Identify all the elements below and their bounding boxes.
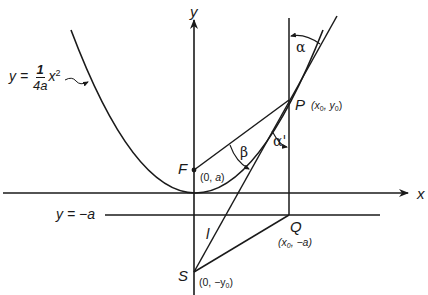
diagram-graphics bbox=[0, 0, 428, 295]
parabola-equation-label: y = 14ax2 bbox=[9, 63, 60, 92]
line-SQ bbox=[194, 215, 289, 272]
tangent-line-label: l bbox=[206, 226, 209, 241]
fraction-numerator: 1 bbox=[36, 63, 45, 78]
y-axis-label: y bbox=[190, 4, 198, 19]
equation-lhs: y = bbox=[9, 68, 32, 84]
curve-label-leader bbox=[65, 78, 88, 84]
point-S-label: S bbox=[178, 268, 188, 283]
coords-text: ) bbox=[229, 276, 233, 288]
coords-text: (0, −y bbox=[199, 276, 226, 288]
point-Q-label: Q bbox=[290, 219, 302, 234]
focus-point bbox=[192, 168, 197, 173]
x-axis-label: x bbox=[417, 186, 425, 201]
coords-text: (x bbox=[278, 236, 287, 248]
point-F-label: F bbox=[178, 161, 187, 176]
angle-alpha-prime-label: α' bbox=[273, 134, 286, 148]
point-P-label: P bbox=[295, 97, 305, 112]
equation-exponent: 2 bbox=[55, 68, 60, 78]
coords-text: (0, bbox=[200, 171, 215, 183]
coords-text: ) bbox=[221, 171, 225, 183]
angle-beta-label: β bbox=[240, 145, 248, 159]
coords-text: (x bbox=[311, 99, 320, 111]
angle-alpha-label: α bbox=[296, 40, 305, 54]
tangent-line-l bbox=[194, 16, 337, 272]
equation-fraction: 14a bbox=[33, 63, 47, 92]
fraction-denominator: 4a bbox=[33, 78, 47, 92]
parabola-diagram: y x y = 14ax2 y = −a F (0, a) P (x0, y0)… bbox=[0, 0, 428, 295]
directrix-label: y = −a bbox=[56, 207, 95, 221]
coords-text: , y bbox=[324, 99, 335, 111]
point-F-coords: (0, a) bbox=[200, 172, 225, 183]
coords-text: ) bbox=[339, 99, 343, 111]
point-Q-coords: (x0, −a) bbox=[278, 237, 312, 249]
coords-text: , −a) bbox=[291, 236, 312, 248]
point-S-coords: (0, −y0) bbox=[199, 277, 233, 289]
point-P-coords: (x0, y0) bbox=[311, 100, 342, 112]
